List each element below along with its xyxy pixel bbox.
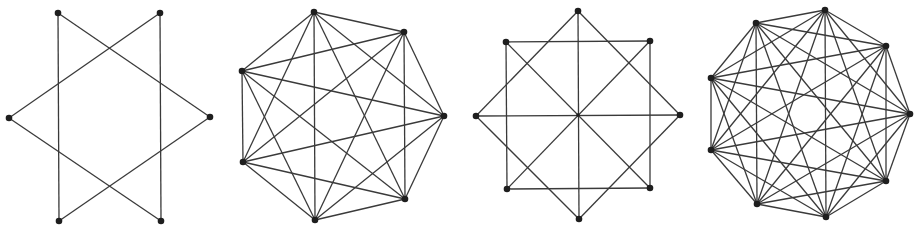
graph-vertex (239, 68, 246, 75)
graph-vertex (822, 7, 829, 14)
graph-vertex (441, 113, 448, 120)
graph-edge (9, 118, 161, 221)
graph-vertex (708, 75, 715, 82)
graph-edge (711, 150, 757, 204)
graph-edge (711, 10, 825, 150)
graph-vertex (647, 38, 654, 45)
graph-vertex (312, 217, 319, 224)
graph-edge (243, 12, 314, 162)
graph-edge (826, 46, 886, 217)
graph-figure (0, 0, 921, 226)
graph-vertex (823, 214, 830, 221)
graph-edge (825, 10, 826, 217)
graph-edge (58, 13, 59, 221)
graph-vertex (55, 10, 62, 17)
graph-vertex (157, 10, 164, 17)
graph-vertex (56, 218, 63, 225)
graph-edge (314, 12, 405, 199)
graph-vertex (240, 159, 247, 166)
graph-vertex (207, 114, 214, 121)
graph-vertex (504, 186, 511, 193)
graph-vertex (708, 147, 715, 154)
graph-edge (243, 116, 444, 162)
graph-vertex (575, 8, 582, 15)
graph-edge (404, 32, 405, 199)
graph-edge (59, 117, 210, 221)
graph-vertex (883, 43, 890, 50)
graph-edge (242, 71, 243, 162)
graph-vertex (401, 29, 408, 36)
graph-k9-complete (708, 7, 914, 221)
graph-vertex (503, 39, 510, 46)
graph-vertex (402, 196, 409, 203)
graph-vertex (311, 9, 318, 16)
graph-edge (711, 23, 756, 78)
graph-edge (404, 32, 444, 116)
graph-edge (160, 13, 161, 221)
graph-vertex (647, 185, 654, 192)
graph-vertex (6, 115, 13, 122)
graph-k7-complete (239, 9, 448, 224)
graph-edge (314, 12, 315, 220)
graph-edge (886, 46, 910, 114)
graph-vertex (907, 111, 914, 118)
graph-edge (58, 13, 210, 117)
graph-edge (315, 32, 404, 220)
graph-edge (405, 116, 444, 199)
graph-vertex (473, 113, 480, 120)
graph-vertex (576, 216, 583, 223)
graph-vertex (158, 218, 165, 225)
graph-vertex (754, 201, 761, 208)
graph-hexagram (6, 10, 214, 225)
graph-vertex (677, 112, 684, 119)
graph-vertex (753, 20, 760, 27)
graph-edge (314, 12, 444, 116)
graph-vertex (883, 178, 890, 185)
center-dot (576, 113, 580, 117)
graph-octagram (473, 8, 684, 223)
graph-edge (242, 71, 444, 116)
graph-edge (242, 71, 315, 220)
graph-edge (886, 114, 910, 181)
graph-edge (9, 13, 160, 118)
